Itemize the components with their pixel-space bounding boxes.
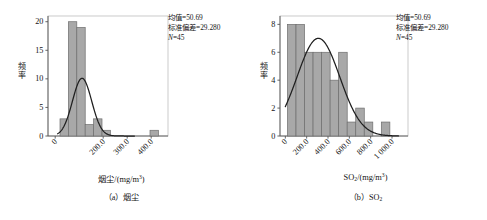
stats-b-line: 均值=50.69 xyxy=(396,13,449,23)
panel-caption-b-subscript: 2 xyxy=(379,196,382,202)
panel-caption-a-name: 烟尘 xyxy=(123,193,139,202)
x-axis-title-b-paren: ) xyxy=(385,173,388,182)
y-axis-label-b: 频率 xyxy=(258,62,270,80)
panel-so2: 024680200.0400.0600.0800.01 000.0 频率 均值=… xyxy=(244,0,487,220)
plot-frame xyxy=(48,16,168,136)
y-tick-label: 0 xyxy=(271,132,275,141)
x-axis-title-a: 烟尘/(mg/m3) xyxy=(0,172,243,184)
histogram-bar xyxy=(313,52,322,136)
x-tick-label: 600.0 xyxy=(334,137,353,156)
x-tick-label: 400.0 xyxy=(136,137,155,156)
panel-caption-b: （b）SO2 xyxy=(244,190,487,202)
x-axis-title-a-text: 烟尘/(mg/m xyxy=(98,175,139,184)
y-tick-label: 5 xyxy=(39,103,43,112)
histogram-bar xyxy=(287,24,296,136)
x-axis-title-b: SO2/(mg/m3) xyxy=(244,172,487,182)
panel-caption-a: （a）烟尘 xyxy=(0,190,243,202)
histogram-bar xyxy=(85,125,93,136)
stats-b-n-value: =45 xyxy=(401,33,413,42)
y-tick-label: 0 xyxy=(39,132,43,141)
x-axis-title-b-units: /(mg/m xyxy=(357,173,382,182)
x-axis-title-a-paren: ) xyxy=(142,175,145,184)
histogram-bar xyxy=(296,24,305,136)
histogram-bar xyxy=(60,119,68,136)
x-axis-title-b-species: SO xyxy=(344,173,355,182)
stats-a-line: 标准偏差=29.280 xyxy=(168,23,221,33)
x-tick-label: 1 000.0 xyxy=(372,137,396,161)
y-axis-label-b-char: 率 xyxy=(258,71,270,80)
stats-a-n-value: =45 xyxy=(173,33,185,42)
y-tick-label: 4 xyxy=(271,76,275,85)
y-axis-label-a-char: 频 xyxy=(16,62,28,71)
histogram-bar xyxy=(305,52,314,136)
histogram-bar xyxy=(68,22,76,136)
y-tick-label: 20 xyxy=(35,17,43,26)
histogram-bar xyxy=(381,122,390,136)
y-tick-label: 6 xyxy=(271,48,275,57)
histogram-bar xyxy=(322,52,331,136)
x-tick-label: 0 xyxy=(50,137,59,146)
x-tick-label: 200.0 xyxy=(291,137,310,156)
y-axis-label-b-char: 频 xyxy=(258,62,270,71)
figure-container: 051015200200.0300.0400.0 频率 均值=50.69标准偏差… xyxy=(0,0,487,220)
histogram-so2: 024680200.0400.0600.0800.01 000.0 xyxy=(244,0,487,170)
x-tick-label: 0 xyxy=(280,137,289,146)
x-tick-label: 800.0 xyxy=(355,137,374,156)
stats-a-line: 均值=50.69 xyxy=(168,13,221,23)
panel-smoke-dust: 051015200200.0300.0400.0 频率 均值=50.69标准偏差… xyxy=(0,0,243,220)
x-tick-label: 300.0 xyxy=(112,137,131,156)
panel-caption-a-index: （a） xyxy=(104,193,124,202)
x-tick-label: 400.0 xyxy=(312,137,331,156)
x-tick-label: 200.0 xyxy=(88,137,107,156)
stats-b-line: 标准偏差=29.280 xyxy=(396,23,449,33)
y-tick-label: 2 xyxy=(271,104,275,113)
histogram-bar xyxy=(330,80,339,136)
y-tick-label: 15 xyxy=(35,46,43,55)
y-tick-label: 8 xyxy=(271,20,275,29)
stats-annotation-a: 均值=50.69标准偏差=29.280N=45 xyxy=(168,13,221,44)
stats-b-line: N=45 xyxy=(396,33,449,43)
y-tick-label: 10 xyxy=(35,74,43,83)
stats-annotation-b: 均值=50.69标准偏差=29.280N=45 xyxy=(396,13,449,44)
histogram-bar xyxy=(364,122,373,136)
y-axis-label-a-char: 率 xyxy=(16,71,28,80)
panel-caption-b-name: SO xyxy=(369,193,379,202)
y-axis-label-a: 频率 xyxy=(16,62,28,80)
histogram-bar xyxy=(347,122,356,136)
panel-caption-b-index: （b） xyxy=(349,193,369,202)
stats-a-line: N=45 xyxy=(168,33,221,43)
histogram-bar xyxy=(150,130,158,136)
